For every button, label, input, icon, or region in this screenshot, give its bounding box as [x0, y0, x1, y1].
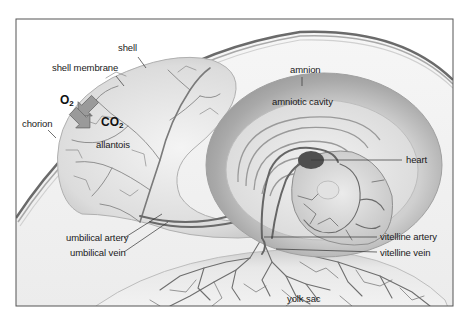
label-co2: CO2	[101, 116, 123, 130]
label-o2: O2	[60, 94, 74, 108]
label-vitelline-vein: vitelline vein	[380, 248, 430, 258]
label-chorion: chorion	[22, 119, 52, 129]
label-vitelline-artery: vitelline artery	[380, 232, 437, 242]
embryo-eye	[317, 181, 339, 199]
o2-subscript: 2	[69, 99, 73, 108]
o2-symbol: O	[60, 93, 69, 107]
label-heart: heart	[406, 155, 427, 165]
label-umbilical-vein: umbilical vein	[70, 248, 126, 258]
label-shell: shell	[118, 43, 137, 53]
label-shell-membrane: shell membrane	[52, 63, 118, 73]
label-amnion: amnion	[290, 65, 321, 75]
co2-subscript: 2	[119, 121, 123, 130]
diagram-canvas	[0, 0, 469, 323]
label-amniotic-cavity: amniotic cavity	[272, 97, 333, 107]
label-yolk-sac: yolk sac	[287, 294, 321, 304]
label-umbilical-artery: umbilical artery	[66, 233, 128, 243]
co2-symbol: CO	[101, 115, 119, 129]
label-allantois: allantois	[96, 140, 130, 150]
